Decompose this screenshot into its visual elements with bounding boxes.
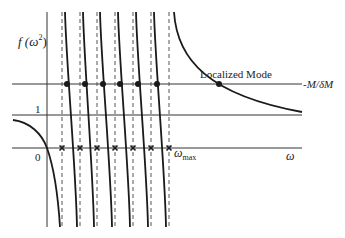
intersection-dot [100, 81, 106, 87]
dispersion-diagram: f (ω2) 1 0 ωmax ω -M/δM Localized Mode [0, 0, 345, 238]
intersection-dot [117, 81, 123, 87]
branch-curve [100, 12, 112, 227]
intersection-dot [135, 81, 141, 87]
tick-label-zero: 0 [35, 151, 41, 163]
pole-asymptotes [62, 12, 169, 227]
branch-curve [136, 12, 148, 227]
y-axis-label: f (ω2) [18, 33, 47, 49]
branch-curve [118, 12, 130, 227]
intersection-dot [154, 81, 160, 87]
localized-branch-curve [174, 12, 302, 112]
axes [12, 12, 302, 227]
hline-label: -M/δM [303, 78, 334, 90]
diagram-canvas: f (ω2) 1 0 ωmax ω -M/δM Localized Mode [0, 0, 345, 238]
branch-curve [65, 12, 77, 227]
localized-mode-label: Localized Mode [200, 68, 272, 80]
intersection-dot [64, 81, 70, 87]
function-branches [13, 12, 302, 227]
x-axis-label: ω [286, 149, 294, 163]
tick-label-one: 1 [35, 103, 41, 115]
branch-curve [154, 12, 166, 227]
intersection-dot [82, 81, 88, 87]
localized-mode-dot [216, 81, 222, 87]
branch-curve [83, 12, 94, 227]
left-branch-curve [13, 120, 60, 227]
